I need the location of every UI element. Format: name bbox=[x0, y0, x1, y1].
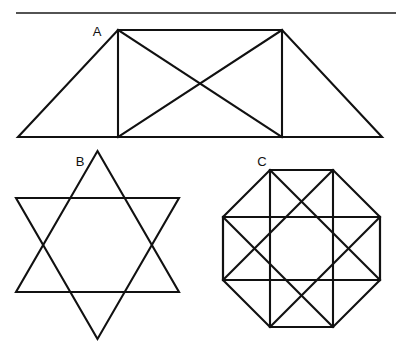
figure-c-diagonal-lefttop-bottomright2 bbox=[223, 217, 333, 327]
figure-b-label: B bbox=[76, 154, 85, 169]
figure-c-diagonal-righttop-bottomleft2 bbox=[270, 217, 380, 327]
figure-c-inner-square-vertical bbox=[270, 170, 333, 327]
figure-a-group: A bbox=[18, 24, 382, 137]
figures-canvas: A B C bbox=[0, 0, 396, 353]
figure-c-group: C bbox=[223, 154, 380, 327]
figure-c-octagon-outline bbox=[223, 170, 380, 327]
figure-c-diagonal-topleft-bottomright bbox=[270, 170, 380, 280]
figure-a-label: A bbox=[93, 24, 102, 39]
figure-c-inner-square-horizontal bbox=[223, 217, 380, 280]
figure-c-label: C bbox=[257, 154, 266, 169]
figure-b-triangle-upward bbox=[16, 151, 179, 292]
figure-c-diagonal-topright-bottomleft bbox=[223, 170, 333, 280]
figure-b-triangle-downward bbox=[16, 198, 179, 339]
figure-b-group: B bbox=[16, 151, 179, 339]
figure-sheet: A B C bbox=[0, 0, 396, 353]
